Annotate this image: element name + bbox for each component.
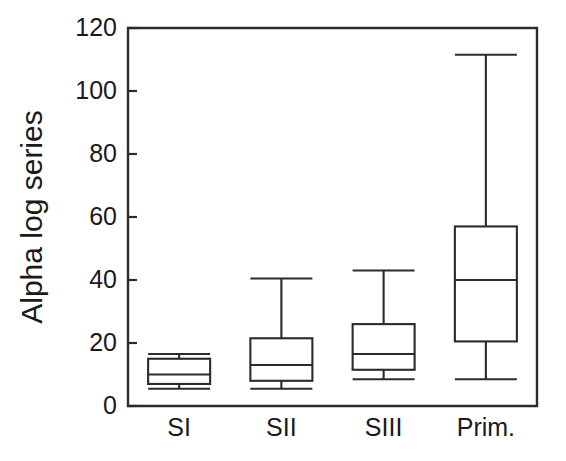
y-tick-label: 120	[75, 13, 117, 41]
y-tick-label: 60	[89, 202, 117, 230]
box-plot-group: SII	[250, 278, 312, 441]
box-iqr	[148, 359, 210, 384]
box-iqr	[353, 324, 415, 370]
box-plot-group: SI	[148, 354, 210, 441]
boxplot-chart: 020406080100120Alpha log seriesSISIISIII…	[0, 0, 566, 461]
y-tick-label: 80	[89, 139, 117, 167]
plot-frame	[128, 28, 537, 406]
box-plot-group: Prim.	[455, 55, 517, 442]
x-category-label: SIII	[365, 413, 403, 441]
y-tick-label: 20	[89, 328, 117, 356]
x-category-label: Prim.	[457, 413, 515, 441]
y-tick-label: 0	[103, 391, 117, 419]
x-category-label: SII	[266, 413, 297, 441]
x-category-label: SI	[167, 413, 191, 441]
y-axis-title: Alpha log series	[15, 110, 48, 323]
box-plot-group: SIII	[353, 271, 415, 442]
box-iqr	[250, 338, 312, 381]
box-iqr	[455, 226, 517, 341]
y-tick-label: 100	[75, 76, 117, 104]
y-tick-label: 40	[89, 265, 117, 293]
chart-root: 020406080100120Alpha log seriesSISIISIII…	[0, 0, 566, 461]
